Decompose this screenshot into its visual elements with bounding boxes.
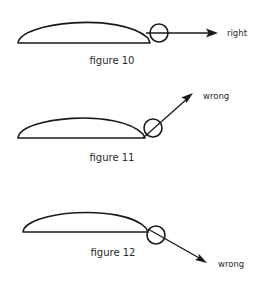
figure-caption: figure 12 — [91, 247, 136, 258]
ball-icon — [147, 226, 165, 244]
arrow-line — [143, 98, 188, 138]
arrowhead-icon — [195, 254, 207, 264]
diagram-canvas: right figure 10 wrong figure 11 wrong fi… — [0, 0, 259, 285]
dome-shape — [18, 22, 150, 43]
direction-label: wrong — [203, 91, 229, 101]
figure-caption: figure 11 — [90, 152, 135, 163]
figure-11: wrong figure 11 — [18, 91, 229, 163]
direction-label: right — [227, 28, 248, 38]
arrowhead-icon — [181, 93, 193, 103]
direction-label: wrong — [218, 259, 244, 269]
dome-shape — [23, 212, 148, 232]
figure-caption: figure 10 — [90, 55, 135, 66]
figure-12: wrong figure 12 — [23, 212, 244, 269]
dome-shape — [18, 118, 145, 138]
figure-10: right figure 10 — [18, 22, 248, 66]
